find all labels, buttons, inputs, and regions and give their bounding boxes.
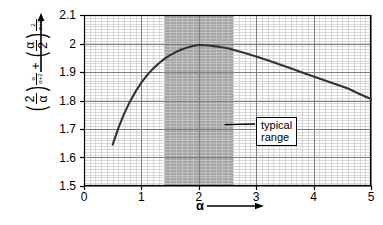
fraction-numerator: 2 <box>24 94 36 105</box>
paren-close-1: ) <box>26 86 47 91</box>
fraction-alpha-over-2: α 2 <box>24 40 49 51</box>
annotation-line-2: range <box>261 131 292 143</box>
x-tick-label: 5 <box>361 191 381 203</box>
x-tick-label: 4 <box>304 191 324 203</box>
y-tick-label: 1.9 <box>48 66 76 78</box>
paren-open-2: ( <box>26 52 47 57</box>
y-tick-label: 1.7 <box>48 123 76 135</box>
plus-operator: + <box>29 63 43 70</box>
x-tick-label: 1 <box>131 191 151 203</box>
chart-figure: ( 2 α ) α α+2 + ( α 2 ) 2 α+2 <box>0 0 383 225</box>
y-axis-term-2: ( α 2 ) 2 α+2 <box>24 19 49 60</box>
exponent-2-over-alpha-plus-2: 2 α+2 <box>30 19 43 31</box>
y-tick-label: 1.8 <box>48 95 76 107</box>
exponent-alpha-over-alpha-plus-2: α α+2 <box>30 73 43 85</box>
paren-close-2: ) <box>26 33 47 38</box>
x-tick-label: 0 <box>74 191 94 203</box>
paren-open-1: ( <box>26 106 47 111</box>
y-tick-label: 1.6 <box>48 152 76 164</box>
x-tick-label: 2 <box>189 191 209 203</box>
x-tick-label: 3 <box>246 191 266 203</box>
typical-range-annotation: typical range <box>256 117 297 146</box>
y-tick-label: 2.1 <box>48 9 76 21</box>
annotation-line-1: typical <box>261 119 292 131</box>
exponent-denominator: α+2 <box>36 19 43 31</box>
fraction-denominator: α <box>36 94 49 105</box>
annotation-leader-line <box>225 124 255 125</box>
fraction-numerator: α <box>24 40 36 51</box>
y-axis-term-1: ( 2 α ) α α+2 <box>24 73 49 114</box>
exponent-denominator: α+2 <box>36 73 43 85</box>
y-tick-label: 2 <box>48 38 76 50</box>
y-tick-label: 1.5 <box>48 180 76 192</box>
fraction-2-over-alpha: 2 α <box>24 94 49 105</box>
y-axis-label: ( 2 α ) α α+2 + ( α 2 ) 2 α+2 <box>23 6 49 126</box>
fraction-denominator: 2 <box>36 40 49 51</box>
